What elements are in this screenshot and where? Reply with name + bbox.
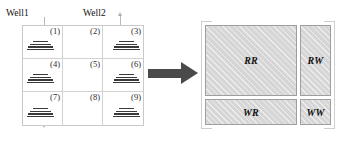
grid-cell-number: (6)	[131, 59, 141, 70]
fracture-glyph-icon	[27, 108, 54, 120]
arrow-shaft	[148, 69, 183, 78]
grid-cell-number: (9)	[131, 92, 141, 103]
grid-cell: (5)	[63, 59, 103, 92]
fracture-glyph-icon	[113, 108, 140, 120]
grid-cell: (8)	[63, 92, 103, 125]
grid-cell: (1)	[23, 26, 63, 59]
fracture-glyph-icon	[27, 41, 54, 53]
figure-container: Well1 Well2 (1) (2) (3) (4) (5)	[0, 0, 343, 146]
fracture-glyph-icon	[27, 74, 54, 86]
grid-cell: (2)	[63, 26, 103, 59]
reservoir-grid: (1) (2) (3) (4) (5) (6) (7	[22, 25, 144, 126]
partition-label: RW	[308, 55, 324, 66]
grid-cell-number: (8)	[90, 92, 100, 103]
fracture-glyph-icon	[113, 41, 140, 53]
partition-block-wr: WR	[205, 99, 297, 125]
grid-cell: (9)	[103, 92, 143, 125]
grid-cell-number: (5)	[90, 59, 100, 70]
grid-cell-number: (4)	[50, 59, 60, 70]
grid-cell: (6)	[103, 59, 143, 92]
partition-matrix-panel: RR RW WR WW	[201, 21, 335, 129]
well1-label: Well1	[6, 8, 29, 18]
grid-cell-number: (3)	[131, 26, 141, 37]
partition-label: WR	[243, 107, 259, 118]
well2-label: Well2	[83, 8, 106, 18]
well2-arrow-up-icon	[118, 12, 122, 16]
partition-label: RR	[244, 55, 258, 66]
fracture-glyph-icon	[113, 74, 140, 86]
grid-cell-number: (7)	[50, 92, 60, 103]
partition-block-rw: RW	[300, 25, 331, 96]
partition-label: WW	[306, 107, 324, 118]
partition-block-ww: WW	[300, 99, 331, 125]
transform-arrow-icon	[148, 62, 200, 84]
grid-cell: (3)	[103, 26, 143, 59]
reservoir-grid-panel: Well1 Well2 (1) (2) (3) (4) (5)	[0, 0, 150, 146]
grid-cell-number: (1)	[50, 26, 60, 37]
grid-cell: (7)	[23, 92, 63, 125]
grid-cell-number: (2)	[90, 26, 100, 37]
partition-block-rr: RR	[205, 25, 297, 96]
arrow-head	[181, 62, 198, 84]
grid-cell: (4)	[23, 59, 63, 92]
